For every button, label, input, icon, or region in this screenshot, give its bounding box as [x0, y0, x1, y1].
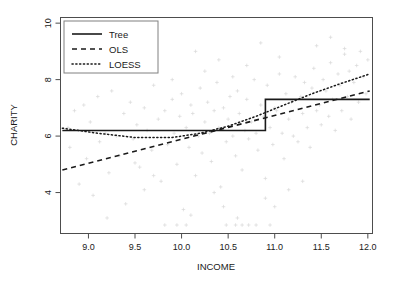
- scatter-point: [182, 208, 186, 212]
- scatter-point: [254, 131, 258, 135]
- scatter-point: [301, 179, 305, 183]
- scatter-point: [264, 196, 268, 200]
- scatter-point: [175, 163, 179, 167]
- legend-label-tree: Tree: [109, 29, 128, 40]
- scatter-point: [236, 216, 240, 220]
- scatter-point: [284, 92, 288, 96]
- scatter-point: [343, 47, 347, 51]
- scatter-point: [222, 106, 226, 110]
- scatter-point: [240, 168, 244, 172]
- scatter-point: [287, 188, 291, 192]
- scatter-point: [296, 140, 300, 144]
- scatter-point: [194, 50, 198, 54]
- legend-label-ols: OLS: [109, 44, 128, 55]
- scatter-point: [143, 188, 147, 192]
- scatter-point: [254, 223, 258, 227]
- scatter-point: [236, 89, 240, 93]
- scatter-point: [180, 92, 184, 96]
- scatter-point: [343, 52, 347, 56]
- scatter-point: [252, 78, 256, 82]
- scatter-point: [212, 191, 216, 195]
- scatter-point: [271, 143, 275, 147]
- scatter-point: [143, 106, 147, 110]
- scatter-point: [203, 120, 207, 124]
- scatter-point: [217, 58, 221, 62]
- scatter-point: [265, 83, 269, 87]
- scatter-point: [198, 86, 202, 90]
- scatter-point: [264, 177, 268, 181]
- series-line-loess: [62, 74, 369, 138]
- scatter-point: [301, 112, 305, 116]
- scatter-point: [245, 64, 249, 68]
- scatter-point: [329, 35, 333, 39]
- scatter-point: [163, 109, 167, 113]
- scatter-point: [247, 137, 251, 141]
- scatter-point: [329, 61, 333, 65]
- scatter-point: [282, 157, 286, 161]
- scatter-point: [278, 72, 282, 76]
- x-axis-title: INCOME: [197, 261, 235, 272]
- x-tick-label: 9.5: [129, 242, 142, 252]
- scatter-point: [231, 75, 235, 79]
- scatter-point: [357, 100, 361, 104]
- scatter-point: [349, 117, 353, 121]
- scatter-point: [189, 213, 193, 217]
- y-axis-title: CHARITY: [8, 103, 19, 145]
- scatter-point: [280, 131, 284, 135]
- chart-legend: TreeOLSLOESS: [64, 21, 158, 73]
- scatter-point: [138, 165, 142, 169]
- y-tick-label: 10: [44, 18, 54, 28]
- scatter-point: [366, 58, 370, 62]
- legend-label-loess: LOESS: [109, 59, 141, 70]
- scatter-point: [247, 223, 251, 227]
- scatter-point: [259, 103, 263, 107]
- scatter-point: [292, 134, 296, 138]
- scatter-point: [234, 223, 238, 227]
- scatter-point: [275, 109, 279, 113]
- series-line-tree: [62, 99, 369, 130]
- scatter-point: [315, 44, 319, 48]
- scatter-point: [124, 202, 128, 206]
- scatter-point: [203, 69, 207, 73]
- scatter-point: [152, 83, 156, 87]
- x-tick-label: 10.5: [219, 242, 237, 252]
- scatter-point: [273, 205, 277, 209]
- scatter-point: [256, 148, 260, 152]
- scatter-point: [184, 126, 188, 130]
- scatter-point: [129, 100, 133, 104]
- chart-canvas: 9.09.510.010.511.011.512.046810 INCOME C…: [0, 0, 393, 287]
- scatter-point: [219, 185, 223, 189]
- scatter-point: [98, 140, 102, 144]
- scatter-point: [333, 129, 337, 133]
- scatter-point: [210, 160, 214, 164]
- scatter-point: [215, 81, 219, 85]
- scatter-point: [268, 126, 272, 130]
- scatter-point: [238, 112, 242, 116]
- scatter-point: [364, 92, 368, 96]
- scatter-point: [194, 174, 198, 178]
- scatter-point: [308, 146, 312, 150]
- scatter-point: [178, 115, 182, 119]
- scatter-point: [359, 50, 363, 54]
- scatter-point: [287, 117, 291, 121]
- scatter-point: [175, 223, 179, 227]
- scatter-point: [259, 41, 263, 45]
- scatter-point: [150, 148, 154, 152]
- scatter-point: [340, 109, 344, 113]
- scatter-point: [336, 72, 340, 76]
- scatter-point: [352, 81, 356, 85]
- scatter-point: [73, 109, 77, 113]
- regression-lines-layer: [62, 74, 369, 170]
- scatter-point: [191, 112, 195, 116]
- scatter-point: [268, 223, 272, 227]
- scatter-point: [135, 123, 139, 127]
- scatter-point: [91, 194, 95, 198]
- x-tick-label: 12.0: [359, 242, 377, 252]
- x-tick-label: 9.0: [82, 242, 95, 252]
- scatter-point: [306, 126, 310, 130]
- scatter-point: [133, 161, 137, 165]
- y-tick-label: 6: [44, 134, 54, 139]
- scatter-point: [224, 223, 228, 227]
- scatter-point: [310, 86, 314, 90]
- scatter-point: [206, 100, 210, 104]
